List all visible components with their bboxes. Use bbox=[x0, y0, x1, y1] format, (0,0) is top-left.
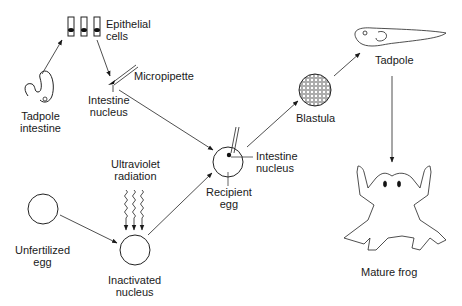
intestine-icon bbox=[25, 71, 53, 102]
label-micropipette: Micropipette bbox=[134, 70, 194, 82]
uv-radiation-icon bbox=[125, 190, 144, 230]
label-ultraviolet-radiation: Ultraviolet radiation bbox=[111, 158, 160, 182]
label-inactivated-nucleus: Inactivated nucleus bbox=[108, 274, 161, 298]
unfertilized-egg-icon bbox=[28, 194, 58, 224]
label-line: Recipient bbox=[206, 186, 252, 198]
label-line: nucleus bbox=[108, 286, 161, 298]
recipient-egg-icon bbox=[213, 127, 253, 186]
tadpole-icon bbox=[355, 28, 446, 46]
label-blastula: Blastula bbox=[296, 112, 335, 124]
label-line: Inactivated bbox=[108, 274, 161, 286]
label-line: Ultraviolet bbox=[111, 158, 160, 170]
label-line: egg bbox=[206, 198, 252, 210]
label-epithelial-cells: Epithelial cells bbox=[106, 18, 151, 42]
label-line: nucleus bbox=[88, 106, 130, 118]
label-line: radiation bbox=[111, 170, 160, 182]
label-line: intestine bbox=[20, 122, 61, 134]
epithelial-cells-icon bbox=[68, 17, 100, 36]
label-tadpole: Tadpole bbox=[375, 54, 414, 66]
label-line: nucleus bbox=[256, 162, 298, 174]
label-line: egg bbox=[15, 256, 70, 268]
label-line: Epithelial bbox=[106, 18, 151, 30]
label-line: Tadpole bbox=[20, 110, 61, 122]
label-line: Unfertilized bbox=[15, 244, 70, 256]
flow-arrows bbox=[42, 40, 392, 243]
label-tadpole-intestine: Tadpole intestine bbox=[20, 110, 61, 134]
frog-icon bbox=[344, 166, 446, 250]
label-line: Intestine bbox=[88, 94, 130, 106]
label-unfertilized-egg: Unfertilized egg bbox=[15, 244, 70, 268]
label-mature-frog: Mature frog bbox=[361, 266, 417, 278]
inactivated-egg-icon bbox=[120, 235, 150, 265]
label-line: cells bbox=[106, 30, 151, 42]
label-intestine-nucleus-top: Intestine nucleus bbox=[88, 94, 130, 118]
label-recipient-egg: Recipient egg bbox=[206, 186, 252, 210]
blastula-icon bbox=[299, 74, 331, 106]
label-line: Intestine bbox=[256, 150, 298, 162]
label-intestine-nucleus-right: Intestine nucleus bbox=[256, 150, 298, 174]
